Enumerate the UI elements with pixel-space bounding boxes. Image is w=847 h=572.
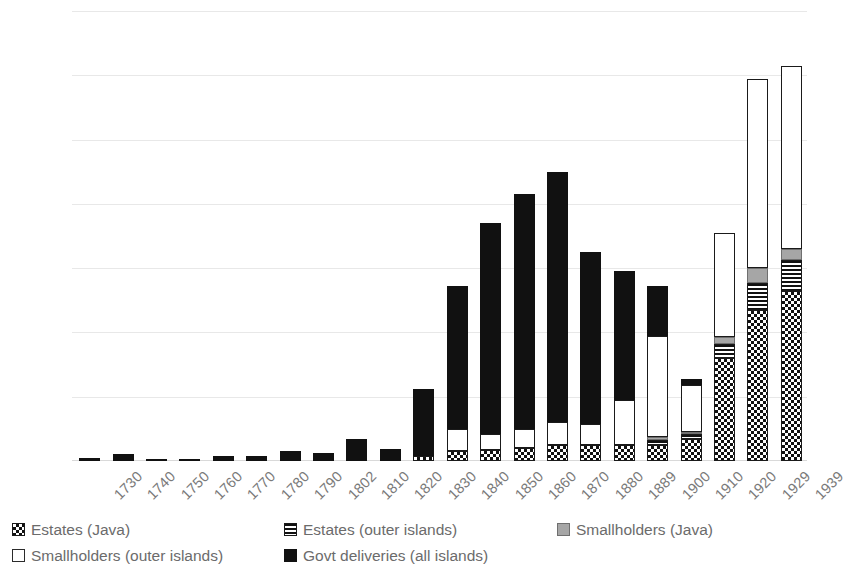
bar-segment[interactable]: [781, 260, 802, 291]
bar-column[interactable]: [246, 456, 267, 461]
bar-segment[interactable]: [747, 79, 768, 269]
legend-label: Estates (outer islands): [303, 522, 457, 538]
bar-column[interactable]: [79, 458, 100, 461]
legend-item[interactable]: Estates (outer islands): [284, 522, 457, 538]
bar-segment[interactable]: [547, 172, 568, 423]
bar-column[interactable]: [346, 439, 367, 462]
x-tick-label: 1770: [244, 468, 279, 503]
plot-area: [72, 11, 807, 461]
legend-item[interactable]: Govt deliveries (all islands): [284, 548, 488, 564]
bar-segment[interactable]: [781, 249, 802, 260]
bar-segment[interactable]: [447, 286, 468, 429]
bar-segment[interactable]: [781, 291, 802, 461]
bar-segment[interactable]: [747, 268, 768, 282]
bar-column[interactable]: [313, 453, 334, 461]
bar-segment[interactable]: [580, 424, 601, 445]
x-tick-label: 1850: [511, 468, 546, 503]
bar-segment[interactable]: [547, 445, 568, 461]
bar-segment[interactable]: [246, 456, 267, 461]
bar-column[interactable]: [647, 286, 668, 461]
bar-segment[interactable]: [346, 439, 367, 462]
legend-label: Smallholders (outer islands): [31, 548, 223, 564]
x-tick-label: 1750: [177, 468, 212, 503]
bar-column[interactable]: [280, 451, 301, 461]
bar-segment[interactable]: [647, 445, 668, 461]
bar-segment[interactable]: [480, 434, 501, 450]
legend-swatch-icon: [284, 523, 297, 536]
bar-column[interactable]: [146, 459, 167, 461]
bar-segment[interactable]: [681, 385, 702, 432]
bar-segment[interactable]: [514, 429, 535, 448]
bar-segment[interactable]: [413, 456, 434, 461]
x-tick-label: 1802: [344, 468, 379, 503]
bar-column[interactable]: [213, 456, 234, 461]
bar-column[interactable]: [714, 233, 735, 461]
bar-segment[interactable]: [113, 454, 134, 461]
bar-segment[interactable]: [447, 429, 468, 452]
bar-segment[interactable]: [747, 310, 768, 461]
bar-segment[interactable]: [714, 233, 735, 337]
bar-column[interactable]: [113, 454, 134, 461]
x-tick-label: 1780: [277, 468, 312, 503]
bar-segment[interactable]: [514, 448, 535, 461]
x-tick-label: 1889: [645, 468, 680, 503]
x-tick-label: 1820: [411, 468, 446, 503]
bar-segment[interactable]: [146, 459, 167, 461]
bar-segment[interactable]: [614, 445, 635, 461]
x-tick-label: 1860: [545, 468, 580, 503]
bar-column[interactable]: [514, 194, 535, 461]
bar-column[interactable]: [580, 252, 601, 461]
bar-segment[interactable]: [647, 286, 668, 336]
bar-column[interactable]: [413, 389, 434, 461]
bar-segment[interactable]: [447, 451, 468, 461]
x-tick-label: 1830: [444, 468, 479, 503]
bar-segment[interactable]: [547, 422, 568, 445]
bar-segment[interactable]: [614, 400, 635, 445]
legend-label: Estates (Java): [31, 522, 130, 538]
bar-segment[interactable]: [213, 456, 234, 461]
x-tick-label: 1740: [144, 468, 179, 503]
bar-segment[interactable]: [480, 450, 501, 461]
bar-column[interactable]: [747, 79, 768, 461]
bar-segment[interactable]: [714, 358, 735, 461]
x-tick-label: 1910: [712, 468, 747, 503]
legend-item[interactable]: Smallholders (outer islands): [12, 548, 223, 564]
bar-segment[interactable]: [380, 449, 401, 461]
bar-segment[interactable]: [514, 194, 535, 429]
x-tick-label: 1870: [578, 468, 613, 503]
bar-segment[interactable]: [647, 336, 668, 437]
legend-item[interactable]: Estates (Java): [12, 522, 130, 538]
bar-segment[interactable]: [480, 223, 501, 434]
bar-column[interactable]: [380, 449, 401, 461]
legend-label: Govt deliveries (all islands): [303, 548, 488, 564]
bar-segment[interactable]: [714, 344, 735, 358]
x-tick-label: 1730: [110, 468, 145, 503]
bar-segment[interactable]: [580, 445, 601, 461]
bar-column[interactable]: [781, 66, 802, 461]
bar-segment[interactable]: [179, 459, 200, 461]
x-tick-label: 1920: [745, 468, 780, 503]
legend-label: Smallholders (Java): [576, 522, 713, 538]
bar-column[interactable]: [547, 172, 568, 461]
bar-segment[interactable]: [681, 439, 702, 462]
bar-segment[interactable]: [280, 451, 301, 461]
bar-column[interactable]: [179, 459, 200, 461]
bar-column[interactable]: [681, 379, 702, 461]
bar-segment[interactable]: [614, 271, 635, 400]
bar-segment[interactable]: [781, 66, 802, 249]
bar-column[interactable]: [480, 223, 501, 461]
x-axis: 1730174017501760177017801790180218101820…: [72, 462, 807, 514]
bar-segment[interactable]: [413, 389, 434, 457]
chart-legend: Estates (Java)Estates (outer islands)Sma…: [12, 520, 807, 568]
bar-segment[interactable]: [580, 252, 601, 424]
bar-segment[interactable]: [747, 283, 768, 310]
x-tick-label: 1840: [478, 468, 513, 503]
legend-item[interactable]: Smallholders (Java): [557, 522, 713, 538]
bar-column[interactable]: [447, 286, 468, 461]
bar-column[interactable]: [614, 271, 635, 461]
bar-segment[interactable]: [79, 458, 100, 461]
legend-swatch-icon: [12, 549, 25, 562]
legend-swatch-icon: [284, 549, 297, 562]
bar-segment[interactable]: [313, 453, 334, 461]
